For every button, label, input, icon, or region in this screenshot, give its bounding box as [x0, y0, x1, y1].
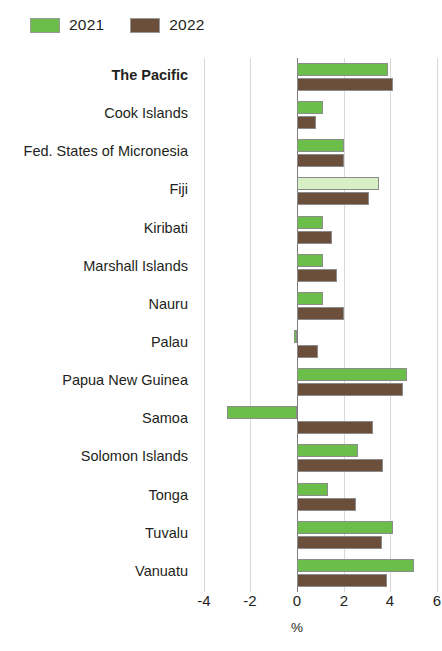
x-tick-label: -2	[243, 592, 256, 609]
category-label: Samoa	[0, 411, 188, 427]
bar-2021	[227, 406, 297, 419]
bar-2022	[297, 574, 387, 587]
pacific-growth-bar-chart: 2021 2022 The PacificCook IslandsFed. St…	[0, 0, 442, 651]
green-swatch-icon	[30, 18, 60, 33]
bar-2022	[297, 192, 369, 205]
legend-label-2021: 2021	[69, 16, 104, 34]
bar-row: Vanuatu	[0, 554, 442, 592]
x-tick-label: 0	[293, 592, 301, 609]
category-label: Cook Islands	[0, 106, 188, 122]
category-label: Palau	[0, 335, 188, 351]
bar-2022	[297, 269, 337, 282]
category-label: Fiji	[0, 182, 188, 198]
bar-row: Solomon Islands	[0, 439, 442, 477]
bar-2021	[297, 521, 393, 534]
bar-row: Tonga	[0, 478, 442, 516]
x-axis: -4-20246 %	[0, 592, 442, 651]
category-label: Tuvalu	[0, 526, 188, 542]
category-label: Papua New Guinea	[0, 373, 188, 389]
category-label: Solomon Islands	[0, 449, 188, 465]
bar-2021	[297, 559, 414, 572]
bar-2022	[297, 231, 332, 244]
bar-row: Papua New Guinea	[0, 363, 442, 401]
category-label: Vanuatu	[0, 564, 188, 580]
bar-row: Palau	[0, 325, 442, 363]
bar-2021	[297, 483, 328, 496]
bar-2021	[297, 254, 323, 267]
bar-2022	[297, 307, 344, 320]
category-label: Marshall Islands	[0, 259, 188, 275]
bar-2022	[297, 421, 373, 434]
legend-entry-2022: 2022	[130, 16, 204, 34]
bar-2022	[297, 383, 403, 396]
bar-2021	[297, 368, 407, 381]
bar-row: Nauru	[0, 287, 442, 325]
bar-row: Marshall Islands	[0, 249, 442, 287]
category-label: Nauru	[0, 297, 188, 313]
bar-row: Fed. States of Micronesia	[0, 134, 442, 172]
x-tick-label: 4	[386, 592, 394, 609]
brown-swatch-icon	[130, 18, 160, 33]
bar-2021	[297, 444, 358, 457]
bar-2021	[297, 101, 323, 114]
x-axis-title: %	[291, 620, 303, 635]
bar-2021	[294, 330, 297, 343]
category-label: Kiribati	[0, 221, 188, 237]
plot-area: The PacificCook IslandsFed. States of Mi…	[0, 58, 442, 592]
x-tick-label: 2	[340, 592, 348, 609]
bar-2022	[297, 536, 382, 549]
bar-rows: The PacificCook IslandsFed. States of Mi…	[0, 58, 442, 592]
bar-2022	[297, 498, 356, 511]
x-tick-label: -4	[197, 592, 210, 609]
bar-row: Cook Islands	[0, 96, 442, 134]
category-label: Fed. States of Micronesia	[0, 144, 188, 160]
bar-2021	[297, 139, 344, 152]
bar-row: Fiji	[0, 172, 442, 210]
bar-2022	[297, 345, 318, 358]
bar-2021	[297, 292, 323, 305]
bar-row: Samoa	[0, 401, 442, 439]
x-tick-label: 6	[433, 592, 441, 609]
bar-2022	[297, 78, 393, 91]
bar-2022	[297, 116, 316, 129]
legend-entry-2021: 2021	[30, 16, 104, 34]
bar-2021	[297, 63, 388, 76]
bar-row: Kiribati	[0, 211, 442, 249]
category-label: The Pacific	[0, 68, 188, 84]
category-label: Tonga	[0, 488, 188, 504]
chart-legend: 2021 2022	[30, 12, 205, 38]
bar-2021	[297, 216, 323, 229]
bar-2022	[297, 459, 383, 472]
bar-2021	[297, 177, 379, 190]
bar-row: Tuvalu	[0, 516, 442, 554]
bar-2022	[297, 154, 344, 167]
legend-label-2022: 2022	[169, 16, 204, 34]
bar-row: The Pacific	[0, 58, 442, 96]
